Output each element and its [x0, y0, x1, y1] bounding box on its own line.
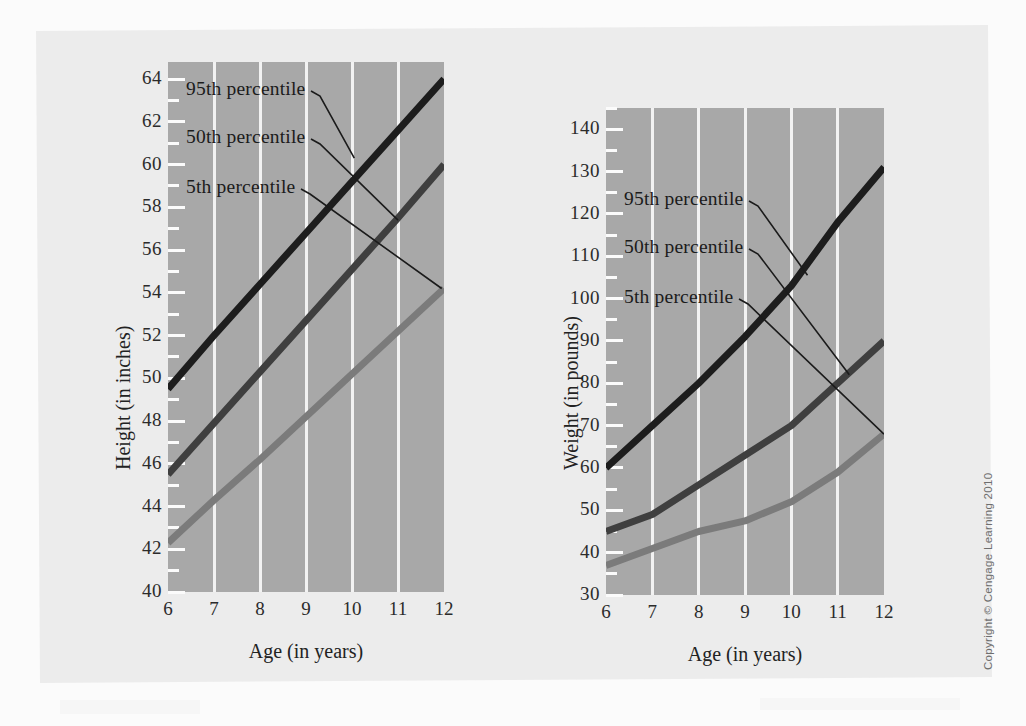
y-axis-tick-label: 120: [544, 202, 600, 224]
series-annotation-label: 50th percentile: [624, 236, 743, 258]
x-axis-tick-label: 10: [771, 601, 811, 623]
y-axis-tick-label: 58: [116, 195, 162, 217]
x-axis-tick-label: 12: [864, 601, 904, 623]
y-axis-tick-label: 50: [544, 498, 600, 520]
x-axis-tick-label: 11: [818, 601, 858, 623]
x-axis-tick-label: 6: [586, 601, 626, 623]
y-axis-tick-label: 140: [544, 117, 600, 139]
y-axis-tick-label: 64: [116, 67, 162, 89]
copyright-notice: Copyright © Cengage Learning 2010: [982, 473, 994, 670]
series-annotation-label: 5th percentile: [624, 286, 733, 308]
y-axis-tick-label: 110: [544, 244, 600, 266]
series-line-50th-percentile: [168, 165, 444, 475]
series-annotation-label: 50th percentile: [186, 126, 305, 148]
x-axis-tick-label: 8: [240, 598, 280, 620]
series-layer: [606, 108, 884, 595]
x-axis-tick-label: 9: [725, 601, 765, 623]
scanned-page: 404244464850525456586062646789101112Age …: [0, 0, 1026, 726]
x-axis-tick-label: 9: [286, 598, 326, 620]
series-line-50th-percentile: [606, 341, 884, 532]
y-axis-title: Weight (in pounds): [560, 316, 583, 470]
y-axis-tick-label: 130: [544, 160, 600, 182]
x-axis-tick-label: 7: [632, 601, 672, 623]
figure-content: 404244464850525456586062646789101112Age …: [0, 0, 1026, 726]
series-annotation-label: 95th percentile: [186, 78, 305, 100]
x-axis-tick-label: 10: [332, 598, 372, 620]
y-axis-tick-label: 44: [116, 495, 162, 517]
x-axis-tick-label: 12: [424, 598, 464, 620]
series-line-95th-percentile: [606, 167, 884, 468]
y-axis-tick-label: 62: [116, 110, 162, 132]
x-axis-title: Age (in years): [665, 643, 825, 666]
y-axis-tick-label: 56: [116, 238, 162, 260]
y-axis-tick-label: 100: [544, 287, 600, 309]
y-axis-tick-label: 40: [544, 541, 600, 563]
series-annotation-label: 95th percentile: [624, 188, 743, 210]
y-axis-tick-label: 60: [116, 153, 162, 175]
x-axis-tick-label: 7: [194, 598, 234, 620]
annotation-leader-line: [749, 201, 808, 275]
y-axis-tick-label: 54: [116, 281, 162, 303]
annotation-leader-line: [301, 189, 442, 289]
x-axis-tick-label: 8: [679, 601, 719, 623]
x-axis-tick-label: 11: [378, 598, 418, 620]
series-annotation-label: 5th percentile: [186, 176, 295, 198]
plot-area: [606, 108, 884, 595]
x-axis-title: Age (in years): [226, 640, 386, 663]
y-axis-tick-label: 42: [116, 537, 162, 559]
y-axis-title: Height (in inches): [112, 326, 135, 470]
series-line-5th-percentile: [168, 289, 444, 543]
annotation-leader-line: [311, 91, 354, 158]
x-axis-tick-label: 6: [148, 598, 188, 620]
